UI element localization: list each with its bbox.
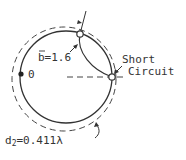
d2-arrow-icon — [94, 122, 99, 127]
d2-leader-curve — [95, 125, 99, 138]
origin-dot — [18, 71, 23, 76]
smith-chart-diagram: 0 b=1.6 Short Circuit d2=0.411λ — [0, 0, 186, 160]
top-arrow-icon — [77, 20, 82, 24]
origin-label: 0 — [28, 68, 35, 81]
susceptance-label: b=1.6 — [38, 51, 71, 64]
upper-point-marker — [77, 31, 83, 37]
distance-label: d2=0.411λ — [5, 134, 63, 148]
short-circuit-marker — [109, 74, 115, 80]
distance-prefix: d — [5, 134, 12, 147]
circuit-label: Circuit — [128, 65, 174, 78]
distance-value: =0.411λ — [16, 134, 63, 147]
